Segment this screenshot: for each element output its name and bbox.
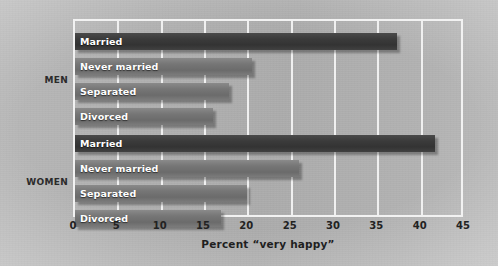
bar-men-married[interactable]: Married [75,33,397,50]
bar-group-men: MarriedNever marriedSeparatedDivorced [75,33,461,133]
bar-label: Divorced [75,111,128,122]
bar-men-never-married[interactable]: Never married [75,58,252,75]
bar-label: Never married [75,61,159,72]
group-title-women: WOMEN [0,177,68,187]
x-tick-label-0: 0 [70,220,77,231]
x-tick-label-40: 40 [413,220,427,231]
bar-women-never-married[interactable]: Never married [75,160,299,177]
x-axis-label: Percent “very happy” [73,238,463,250]
x-axis-ticks: 051015202530354045 [0,220,498,234]
bar-men-divorced[interactable]: Divorced [75,108,213,125]
bar-women-married[interactable]: Married [75,135,435,152]
bar-row: Separated [75,83,461,108]
x-tick-label-30: 30 [326,220,340,231]
x-tick-label-20: 20 [239,220,253,231]
x-tick-label-15: 15 [196,220,210,231]
bar-label: Separated [75,86,136,97]
bar-label: Married [75,138,122,149]
bar-row: Never married [75,58,461,83]
plot-area: MarriedNever marriedSeparatedDivorcedMar… [73,19,463,217]
x-tick-label-45: 45 [456,220,470,231]
bar-row: Divorced [75,108,461,133]
chart-figure: MarriedNever marriedSeparatedDivorcedMar… [0,0,498,266]
bar-men-separated[interactable]: Separated [75,83,229,100]
bar-women-separated[interactable]: Separated [75,185,247,202]
x-tick-label-5: 5 [113,220,120,231]
bar-label: Married [75,36,122,47]
x-tick-label-10: 10 [153,220,167,231]
bar-row: Married [75,33,461,58]
bar-row: Never married [75,160,461,185]
x-tick-label-35: 35 [369,220,383,231]
bar-row: Married [75,135,461,160]
bar-row: Separated [75,185,461,210]
bar-label: Never married [75,163,159,174]
bar-label: Separated [75,188,136,199]
x-tick-label-25: 25 [283,220,297,231]
group-title-men: MEN [0,75,68,85]
